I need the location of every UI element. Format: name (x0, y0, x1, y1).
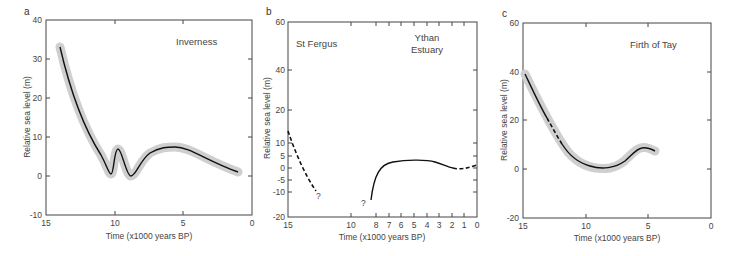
svg-text:40: 40 (33, 15, 43, 25)
x-axis-label-b: Time (x1000 years BP) (339, 232, 426, 242)
x-ticks-a: 15 10 5 0 (41, 20, 254, 228)
rsl-curve-ythan (371, 160, 453, 200)
site-label-inverness: Inverness (176, 36, 217, 47)
svg-text:40: 40 (510, 67, 520, 77)
svg-text:10: 10 (276, 138, 286, 148)
x-ticks-b: 15 10 8 7 6 5 4 3 2 1 0 (283, 22, 479, 230)
svg-text:7: 7 (387, 220, 392, 230)
plot-frame-b (288, 22, 477, 217)
x-axis-label-a: Time (x1000 years BP) (106, 231, 193, 241)
svg-text:0: 0 (37, 171, 42, 181)
svg-text:2: 2 (450, 220, 455, 230)
svg-text:-5: -5 (277, 175, 285, 185)
panel-letter-c: c (502, 8, 507, 19)
svg-text:0: 0 (475, 220, 480, 230)
plot-frame-a (46, 20, 252, 215)
svg-text:20: 20 (510, 115, 520, 125)
svg-text:60: 60 (276, 17, 286, 27)
uncertain-marker-ythan: ? (361, 198, 366, 208)
svg-text:1: 1 (462, 220, 467, 230)
svg-text:5: 5 (280, 151, 285, 161)
x-axis-label-c: Time (x1000 years BP) (574, 233, 661, 243)
uncertainty-band-a (60, 47, 238, 176)
y-axis-label-c: Relative sea level (m) (499, 79, 509, 161)
svg-text:10: 10 (346, 220, 356, 230)
panel-letter-b: b (266, 6, 272, 17)
svg-text:-10: -10 (273, 187, 286, 197)
y-axis-label-a: Relative sea level (m) (22, 76, 32, 158)
svg-text:6: 6 (399, 220, 404, 230)
svg-text:10: 10 (581, 221, 591, 231)
rsl-curve-firth-of-tay (525, 74, 547, 118)
svg-text:0: 0 (250, 218, 255, 228)
panel-a: a 40 30 20 10 0 -10 15 10 5 0 Time (x100… (22, 6, 255, 241)
svg-text:0: 0 (280, 163, 285, 173)
svg-text:4: 4 (425, 220, 430, 230)
svg-text:20: 20 (276, 105, 286, 115)
svg-text:10: 10 (110, 218, 120, 228)
svg-text:5: 5 (646, 221, 651, 231)
svg-text:10: 10 (33, 132, 43, 142)
svg-text:60: 60 (510, 18, 520, 28)
site-label-st-fergus: St Fergus (296, 38, 337, 49)
y-axis-label-b: Relative sea level (m) (262, 77, 272, 159)
uncertain-marker-st-fergus: ? (316, 191, 321, 201)
svg-text:8: 8 (374, 220, 379, 230)
svg-text:30: 30 (33, 54, 43, 64)
site-label-estuary: Estuary (411, 44, 443, 55)
rsl-curve-st-fergus (288, 131, 316, 191)
figure: a 40 30 20 10 0 -10 15 10 5 0 Time (x100… (0, 0, 733, 256)
site-label-firth-of-tay: Firth of Tay (630, 39, 677, 50)
uncertainty-band-c (525, 74, 655, 168)
svg-text:3: 3 (437, 220, 442, 230)
svg-text:0: 0 (514, 164, 519, 174)
site-label-ythan: Ythan (415, 32, 440, 43)
svg-text:5: 5 (412, 220, 417, 230)
panel-letter-a: a (24, 6, 30, 17)
svg-text:15: 15 (41, 218, 51, 228)
panel-c: c 60 40 20 0 -20 15 10 5 0 Time (x1000 y… (499, 8, 714, 243)
y-ticks-c: 60 40 20 0 -20 (507, 18, 711, 223)
svg-text:20: 20 (33, 93, 43, 103)
svg-text:15: 15 (283, 220, 293, 230)
panel-b: b 60 40 20 10 5 0 -5 -10 -20 (262, 6, 480, 242)
svg-text:0: 0 (709, 221, 714, 231)
svg-text:15: 15 (518, 221, 528, 231)
svg-text:5: 5 (181, 218, 186, 228)
svg-text:40: 40 (276, 65, 286, 75)
